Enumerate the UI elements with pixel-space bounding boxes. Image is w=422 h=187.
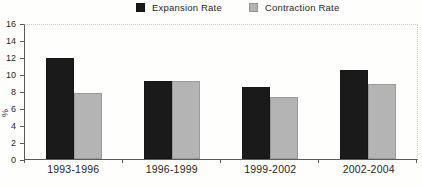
bar-contraction-rate-2002-2004 [368, 84, 396, 159]
bar-chart: Expansion Rate Contraction Rate % 161412… [0, 0, 422, 187]
y-tick-label: 8 [11, 87, 16, 98]
bar-expansion-rate-1996-1999 [144, 81, 172, 159]
bar-expansion-rate-1993-1996 [46, 58, 74, 159]
x-axis-labels: 1993-19961996-19991999-20022002-2004 [24, 163, 418, 175]
y-tick-label: 0 [11, 155, 16, 166]
contraction-rate-swatch-icon [249, 3, 258, 12]
bar-group [319, 25, 417, 159]
y-tick-label: 2 [11, 138, 16, 149]
legend-label-contraction-rate: Contraction Rate [265, 2, 340, 13]
x-category-label: 1996-1999 [123, 163, 222, 175]
x-category-label: 1993-1996 [24, 163, 123, 175]
chart-legend: Expansion Rate Contraction Rate [136, 2, 339, 13]
x-category-label: 1999-2002 [221, 163, 320, 175]
bar-contraction-rate-1996-1999 [172, 81, 200, 159]
bar-contraction-rate-1999-2002 [270, 97, 298, 159]
y-tick-label: 4 [11, 121, 16, 132]
legend-label-expansion-rate: Expansion Rate [152, 2, 222, 13]
plot-area [24, 24, 418, 160]
bar-expansion-rate-1999-2002 [242, 87, 270, 159]
y-tick-label: 14 [6, 36, 16, 47]
expansion-rate-swatch-icon [136, 3, 145, 12]
y-axis-title: % [0, 105, 10, 121]
y-tick-label: 16 [6, 19, 16, 30]
y-tick-label: 12 [6, 53, 16, 64]
bar-group [123, 25, 221, 159]
y-axis: % 1614121086420 [0, 24, 24, 160]
y-tick-label: 6 [11, 104, 16, 115]
legend-item-expansion-rate: Expansion Rate [136, 2, 222, 13]
x-category-label: 2002-2004 [320, 163, 419, 175]
bar-contraction-rate-1993-1996 [74, 93, 102, 159]
y-tick-label: 10 [6, 70, 16, 81]
bar-group [25, 25, 123, 159]
bar-group [221, 25, 319, 159]
legend-item-contraction-rate: Contraction Rate [249, 2, 340, 13]
bar-expansion-rate-2002-2004 [340, 70, 368, 159]
